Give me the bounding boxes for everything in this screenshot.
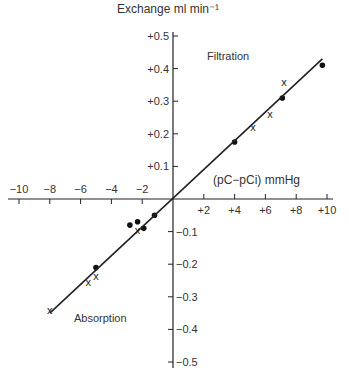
y-tick-label: +0.1 <box>147 160 169 172</box>
y-tick-label: −0.4 <box>176 323 198 335</box>
y-tick-label: +0.3 <box>147 95 169 107</box>
y-tick-label: −0.2 <box>176 258 198 270</box>
y-tick-label: +0.2 <box>147 128 169 140</box>
x-tick-label: +10 <box>318 204 337 216</box>
y-tick-label: +0.4 <box>147 63 169 75</box>
x-tick-label: +2 <box>198 204 211 216</box>
x-tick-label: +4 <box>228 204 241 216</box>
x-tick-label: −6 <box>74 183 87 195</box>
absorption-annotation: Absorption <box>74 312 127 324</box>
y-tick-label: −0.5 <box>176 356 198 368</box>
data-point-cross: x <box>281 76 287 88</box>
data-point-dot <box>127 222 133 228</box>
x-tick-label: −10 <box>10 183 29 195</box>
y-tick-label: −0.1 <box>176 226 198 238</box>
x-axis-label: (pC−pCi) mmHg <box>213 173 300 187</box>
y-tick-label: +0.5 <box>147 30 169 42</box>
x-tick-label: +6 <box>259 204 272 216</box>
data-point-dot <box>320 63 326 69</box>
filtration-annotation: Filtration <box>207 50 249 62</box>
y-axis-label: Exchange ml min⁻¹ <box>117 2 219 16</box>
x-tick-label: −8 <box>44 183 57 195</box>
x-tick-label: −4 <box>105 183 118 195</box>
x-tick-label: +8 <box>290 204 303 216</box>
x-tick-label: −2 <box>136 183 149 195</box>
y-tick-label: −0.3 <box>176 291 198 303</box>
